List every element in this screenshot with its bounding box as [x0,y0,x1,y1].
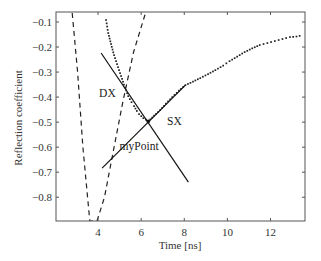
y-tick-label: −0.3 [32,66,52,78]
my-point-marker [146,120,150,124]
x-axis-label: Time [ns] [159,239,202,251]
y-tick-label: −0.1 [32,16,52,28]
annotation-dx: DX [99,87,116,99]
x-tick-label: 12 [265,226,276,238]
y-tick-label: −0.8 [32,191,52,203]
series-layer [72,13,300,221]
annotation-mypoint: myPoint [120,140,160,153]
x-tick-label: 6 [138,226,144,238]
y-tick-label: −0.6 [32,141,52,153]
reflection-chart: 4681012−0.1−0.2−0.3−0.4−0.5−0.6−0.7−0.8 … [0,0,321,261]
x-tick-label: 8 [182,226,188,238]
annotations: DXSXmyPoint [99,87,182,153]
y-tick-label: −0.2 [32,41,52,53]
y-tick-label: −0.5 [32,116,52,128]
annotation-sx: SX [167,115,182,127]
x-tick-label: 4 [95,226,101,238]
series-measured [105,19,300,122]
y-axis-label: Reflection coefficient [12,70,24,165]
y-tick-label: −0.7 [32,166,52,178]
series-dashed-curve [72,13,145,221]
x-tick-label: 10 [222,226,234,238]
y-tick-label: −0.4 [32,91,52,103]
